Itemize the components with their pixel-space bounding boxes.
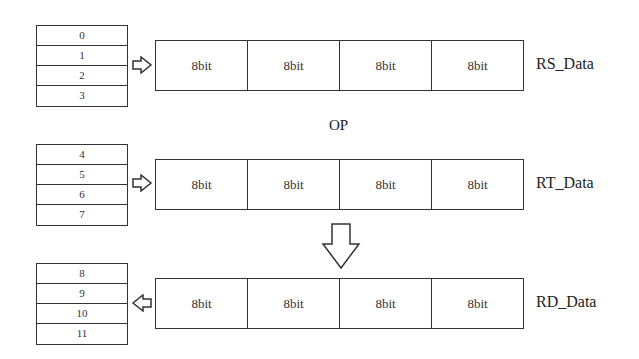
register-9: 9 <box>37 284 127 304</box>
rd-byte-2: 8bit <box>340 279 432 328</box>
register-10: 10 <box>37 304 127 324</box>
rs-register-stack: 0 1 2 3 <box>36 25 128 107</box>
register-3: 3 <box>37 86 127 106</box>
rt-register-stack: 4 5 6 7 <box>36 144 128 226</box>
down-arrow-icon <box>321 222 361 270</box>
op-label: OP <box>329 117 348 134</box>
register-7: 7 <box>37 205 127 225</box>
left-arrow-icon <box>131 294 153 312</box>
rd-data-label: RD_Data <box>536 293 596 311</box>
register-11: 11 <box>37 324 127 344</box>
rs-data-row: 8bit 8bit 8bit 8bit <box>155 40 524 91</box>
register-8: 8 <box>37 264 127 284</box>
rd-byte-1: 8bit <box>248 279 340 328</box>
register-2: 2 <box>37 66 127 86</box>
rt-byte-2: 8bit <box>340 160 432 209</box>
rt-data-row: 8bit 8bit 8bit 8bit <box>155 159 524 210</box>
rt-byte-1: 8bit <box>248 160 340 209</box>
rt-byte-3: 8bit <box>432 160 523 209</box>
register-6: 6 <box>37 185 127 205</box>
rd-register-stack: 8 9 10 11 <box>36 263 128 345</box>
register-0: 0 <box>37 26 127 46</box>
rt-byte-0: 8bit <box>156 160 248 209</box>
rs-data-label: RS_Data <box>536 55 594 73</box>
right-arrow-icon <box>131 174 153 192</box>
rs-byte-2: 8bit <box>340 41 432 90</box>
rd-byte-3: 8bit <box>432 279 523 328</box>
rs-byte-0: 8bit <box>156 41 248 90</box>
rd-data-row: 8bit 8bit 8bit 8bit <box>155 278 524 329</box>
rs-byte-1: 8bit <box>248 41 340 90</box>
rs-byte-3: 8bit <box>432 41 523 90</box>
register-1: 1 <box>37 46 127 66</box>
right-arrow-icon <box>131 56 153 74</box>
rd-byte-0: 8bit <box>156 279 248 328</box>
rt-data-label: RT_Data <box>536 174 594 192</box>
register-5: 5 <box>37 165 127 185</box>
register-4: 4 <box>37 145 127 165</box>
